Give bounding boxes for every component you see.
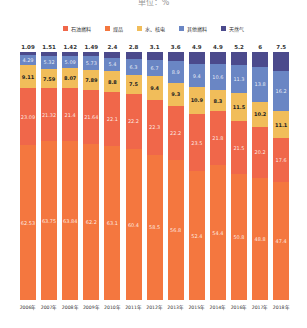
segment-value-label: 11.1 [275, 122, 287, 128]
segment-value-label: 8.9 [172, 69, 180, 75]
bar-segment [252, 52, 268, 67]
bar-segment [20, 52, 36, 55]
bar-segment: 21.4 [62, 88, 78, 141]
top-value-label: 3.6 [165, 44, 187, 50]
segment-value-label: 10.6 [212, 74, 223, 80]
segment-value-label: 47.4 [276, 238, 287, 244]
segment-value-label: 11.3 [233, 76, 244, 82]
segment-value-label: 21.4 [65, 112, 76, 118]
bar-segment: 63.75 [41, 141, 57, 300]
bar-segment: 10.9 [189, 87, 205, 114]
bar-segment [147, 52, 163, 60]
segment-value-label: 50.8 [233, 234, 244, 240]
bar-segment: 21.64 [83, 90, 99, 144]
bar-segment: 21.5 [231, 121, 247, 174]
bar-segment: 63.84 [62, 141, 78, 300]
bar-segment: 7.59 [41, 69, 57, 88]
segment-value-label: 9.4 [150, 85, 159, 91]
bar-segment [189, 52, 205, 64]
bar-segment: 48.8 [252, 178, 268, 300]
bar-segment: 9.4 [189, 64, 205, 87]
x-axis-label: 2007年 [38, 304, 60, 310]
segment-value-label: 7.5 [129, 81, 138, 87]
segment-value-label: 23.09 [21, 114, 35, 120]
bar-segment: 22.2 [168, 106, 184, 161]
bar-segment [104, 52, 120, 58]
segment-value-label: 21.32 [42, 112, 56, 118]
segment-value-label: 11.5 [233, 104, 245, 110]
top-value-label: 7.5 [270, 44, 292, 50]
segment-value-label: 5.73 [86, 60, 97, 66]
x-axis-label: 2006年 [17, 304, 39, 310]
bar-segment: 11.3 [231, 65, 247, 93]
top-value-label: 4.9 [186, 44, 208, 50]
bar-segment: 50.8 [231, 174, 247, 300]
bar-segment: 9.11 [20, 65, 36, 88]
bar-segment: 16.2 [273, 71, 289, 111]
plot-area: 62.5323.099.114.291.092006年63.7521.327.5… [0, 0, 307, 328]
bar-segment [41, 52, 57, 56]
segment-value-label: 4.29 [22, 57, 33, 63]
segment-value-label: 5.32 [44, 59, 55, 65]
segment-value-label: 60.4 [128, 222, 139, 228]
top-value-label: 1.42 [59, 44, 81, 50]
bar-segment: 52.4 [189, 171, 205, 300]
bar-segment: 63.1 [104, 146, 120, 300]
x-axis-label: 2015年 [186, 304, 208, 310]
bar-2015年: 52.423.510.99.4 [189, 52, 205, 300]
segment-value-label: 10.2 [254, 111, 266, 117]
bar-segment: 22.3 [147, 100, 163, 155]
bar-segment: 56.8 [168, 160, 184, 300]
segment-value-label: 13.8 [255, 81, 266, 87]
segment-value-label: 17.6 [276, 157, 287, 163]
x-axis-label: 2016年 [228, 304, 250, 310]
top-value-label: 1.51 [38, 44, 60, 50]
segment-value-label: 22.3 [149, 124, 160, 130]
bar-segment: 10.2 [252, 102, 268, 128]
top-value-label: 3.1 [144, 44, 166, 50]
bar-segment [273, 52, 289, 71]
bar-2017年: 48.820.210.213.8 [252, 52, 268, 300]
top-value-label: 2.8 [123, 44, 145, 50]
bar-2008年: 63.8421.48.075.09 [62, 52, 78, 300]
x-axis-label: 2010年 [101, 304, 123, 310]
segment-value-label: 63.84 [63, 218, 77, 224]
bar-segment: 5.73 [83, 56, 99, 70]
bar-segment: 21.32 [41, 88, 57, 141]
segment-value-label: 9.4 [193, 73, 201, 79]
x-axis-label: 2014年 [207, 304, 229, 310]
bar-segment: 13.8 [252, 67, 268, 102]
bar-segment: 9.3 [168, 83, 184, 106]
segment-value-label: 56.8 [170, 227, 181, 233]
bar-2012年: 58.522.39.46.7 [147, 52, 163, 300]
segment-value-label: 62.2 [86, 219, 97, 225]
segment-value-label: 16.2 [276, 88, 287, 94]
bar-2014年: 54.421.88.310.6 [210, 52, 226, 300]
segment-value-label: 8.07 [64, 75, 76, 81]
segment-value-label: 23.5 [191, 140, 202, 146]
segment-value-label: 22.2 [128, 118, 139, 124]
segment-value-label: 7.89 [85, 77, 97, 83]
segment-value-label: 21.5 [233, 145, 244, 151]
segment-value-label: 5.4 [108, 61, 116, 67]
segment-value-label: 63.75 [42, 218, 56, 224]
bar-segment: 8.07 [62, 68, 78, 88]
top-value-label: 1.09 [17, 44, 39, 50]
segment-value-label: 10.9 [191, 97, 203, 103]
bar-segment [231, 52, 247, 65]
segment-value-label: 54.4 [212, 230, 223, 236]
bar-2016年: 50.821.511.511.3 [231, 52, 247, 300]
bar-segment: 58.5 [147, 155, 163, 300]
segment-value-label: 48.8 [255, 236, 266, 242]
bar-segment: 8.3 [210, 90, 226, 111]
segment-value-label: 63.1 [107, 220, 118, 226]
bar-segment: 5.32 [41, 56, 57, 69]
segment-value-label: 8.3 [213, 98, 222, 104]
top-value-label: 6 [249, 44, 271, 50]
bar-segment: 7.5 [126, 75, 142, 94]
bar-segment: 5.4 [104, 58, 120, 71]
bar-segment: 20.2 [252, 127, 268, 178]
x-axis-label: 2017年 [249, 304, 271, 310]
x-axis-label: 2009年 [80, 304, 102, 310]
segment-value-label: 22.2 [170, 130, 181, 136]
